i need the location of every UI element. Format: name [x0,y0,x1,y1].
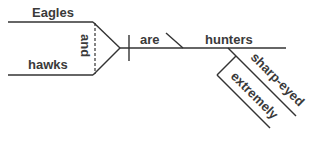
verb-are: are [140,32,160,47]
fork-line-bottom [93,48,120,75]
fork-line-top [93,22,120,48]
subject-eagles: Eagles [32,5,74,20]
subject-hawks: hawks [28,57,68,72]
predicate-hunters: hunters [205,32,253,47]
conjunction-and: and [78,34,93,57]
adverb-connector-line [217,56,236,75]
predicate-slant-divider [166,33,183,48]
sentence-diagram: Eagles hawks and are hunters sharp-eyed … [0,0,317,151]
